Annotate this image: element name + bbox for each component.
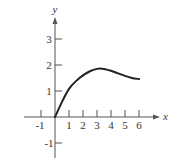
y-axis-label: y	[52, 3, 58, 15]
tick-labels: -1123456-1123	[35, 33, 142, 149]
data-curve	[55, 69, 139, 117]
y-tick-label: 3	[46, 33, 52, 45]
x-axis-arrow-icon	[153, 115, 160, 120]
y-tick-label: -1	[44, 137, 53, 149]
y-tick-label: 2	[46, 59, 52, 71]
y-tick-label: 1	[46, 85, 52, 97]
x-tick-label: 2	[80, 119, 86, 131]
x-tick-label: 1	[66, 119, 72, 131]
plot-area: -1123456-1123 x y	[0, 0, 180, 164]
x-tick-label: 3	[94, 119, 100, 131]
x-tick-label: 4	[108, 119, 114, 131]
x-axis-label: x	[162, 110, 168, 122]
chart: -1123456-1123 x y	[0, 0, 180, 164]
x-tick-label: 5	[122, 119, 128, 131]
x-tick-label: 6	[136, 119, 142, 131]
x-tick-label: -1	[35, 119, 44, 131]
y-axis-arrow-icon	[53, 17, 58, 24]
